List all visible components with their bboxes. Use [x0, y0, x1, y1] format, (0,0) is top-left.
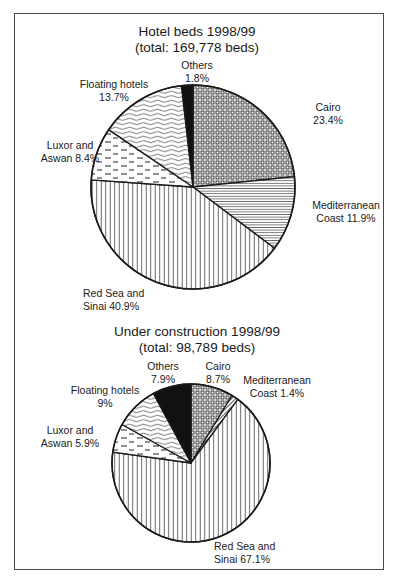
slice-label: Others1.8% — [181, 59, 213, 84]
pie-charts: Hotel beds 1998/99 (total: 169,778 beds)… — [0, 0, 397, 584]
slice-label: Cairo23.4% — [313, 101, 343, 126]
slice-label: Luxor andAswan 8.4% — [41, 139, 99, 164]
slice-label: MediterraneanCoast 1.4% — [243, 374, 311, 399]
slice-label: Cairo8.7% — [205, 360, 230, 385]
under-construction-pie: Under construction 1998/99 (total: 98,78… — [41, 324, 311, 565]
slice-label: Others7.9% — [147, 360, 179, 385]
slice-label: Floating hotels9% — [71, 384, 139, 409]
pie-title: Hotel beds 1998/99 — [138, 24, 255, 39]
slice-label: Floating hotels13.7% — [80, 78, 148, 103]
pie-slice-cairo — [193, 85, 294, 187]
slice-label: Luxor andAswan 5.9% — [41, 424, 99, 449]
slice-label: Red Sea andSinai 67.1% — [214, 540, 275, 565]
slice-label: Red Sea andSinai 40.9% — [83, 287, 144, 312]
hotel-beds-pie: Hotel beds 1998/99 (total: 169,778 beds)… — [41, 24, 380, 312]
slice-label: MediterraneanCoast 11.9% — [312, 199, 380, 224]
pie-title: Under construction 1998/99 — [114, 324, 280, 339]
pie-subtitle: (total: 98,789 beds) — [139, 340, 255, 355]
pie-subtitle: (total: 169,778 beds) — [135, 40, 259, 55]
